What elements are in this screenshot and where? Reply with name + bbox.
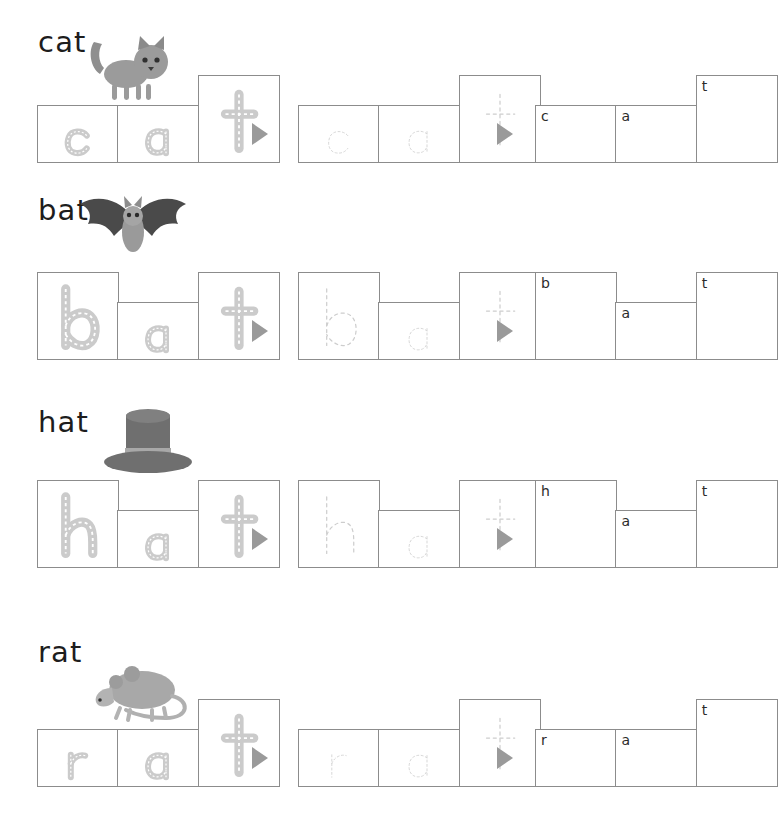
bat-illustration bbox=[74, 192, 192, 274]
glyph-b bbox=[299, 273, 379, 359]
letter-box-t[interactable]: t bbox=[696, 480, 778, 568]
letter-box-c[interactable]: c bbox=[535, 105, 617, 163]
corner-letter-b: b bbox=[541, 275, 550, 291]
letter-box-h bbox=[37, 480, 119, 568]
arrow-2 bbox=[497, 747, 513, 769]
glyph-t bbox=[460, 76, 540, 162]
glyph-t bbox=[460, 700, 540, 786]
arrow-1 bbox=[252, 123, 268, 145]
letter-box-a[interactable]: a bbox=[615, 510, 697, 568]
glyph-a bbox=[118, 303, 198, 359]
arrow-1 bbox=[252, 528, 268, 550]
glyph-t bbox=[199, 76, 279, 162]
glyph-t bbox=[199, 273, 279, 359]
glyph-h bbox=[299, 481, 379, 567]
letter-box-t bbox=[459, 480, 541, 568]
letter-box-t bbox=[198, 699, 280, 787]
word-label: cat bbox=[38, 28, 87, 57]
letter-box-a bbox=[117, 729, 199, 787]
letter-box-a bbox=[378, 302, 460, 360]
letter-box-t bbox=[198, 75, 280, 163]
arrow-2 bbox=[497, 123, 513, 145]
arrow-2 bbox=[497, 528, 513, 550]
arrow-2 bbox=[497, 320, 513, 342]
letter-box-t[interactable]: t bbox=[696, 699, 778, 787]
word-label: hat bbox=[38, 408, 89, 437]
glyph-r bbox=[38, 730, 118, 786]
letter-box-a bbox=[378, 510, 460, 568]
glyph-a bbox=[118, 106, 198, 162]
letter-box-r bbox=[37, 729, 119, 787]
glyph-a bbox=[379, 730, 459, 786]
word-label: bat bbox=[38, 196, 89, 225]
letter-box-h bbox=[298, 480, 380, 568]
corner-letter-a: a bbox=[621, 732, 630, 748]
letter-box-t[interactable]: t bbox=[696, 75, 778, 163]
cat-illustration bbox=[86, 24, 178, 106]
letter-box-a[interactable]: a bbox=[615, 729, 697, 787]
letter-box-a bbox=[378, 105, 460, 163]
letter-box-a bbox=[117, 302, 199, 360]
corner-letter-a: a bbox=[621, 513, 630, 529]
glyph-a bbox=[379, 106, 459, 162]
arrow-1 bbox=[252, 747, 268, 769]
hat-illustration bbox=[100, 400, 196, 486]
glyph-r bbox=[299, 730, 379, 786]
corner-letter-t: t bbox=[702, 483, 708, 499]
glyph-a bbox=[118, 730, 198, 786]
corner-letter-t: t bbox=[702, 275, 708, 291]
letter-box-t bbox=[198, 272, 280, 360]
rat-illustration bbox=[86, 656, 198, 734]
letter-box-a bbox=[117, 105, 199, 163]
glyph-a bbox=[118, 511, 198, 567]
corner-letter-t: t bbox=[702, 78, 708, 94]
glyph-c bbox=[299, 106, 379, 162]
letter-box-r bbox=[298, 729, 380, 787]
letter-box-a[interactable]: a bbox=[615, 105, 697, 163]
letter-box-t bbox=[459, 699, 541, 787]
corner-letter-a: a bbox=[621, 108, 630, 124]
arrow-1 bbox=[252, 320, 268, 342]
letter-box-t bbox=[198, 480, 280, 568]
corner-letter-r: r bbox=[541, 732, 547, 748]
corner-letter-c: c bbox=[541, 108, 549, 124]
letter-box-b bbox=[37, 272, 119, 360]
letter-box-h[interactable]: h bbox=[535, 480, 617, 568]
glyph-t bbox=[460, 273, 540, 359]
glyph-t bbox=[199, 481, 279, 567]
glyph-c bbox=[38, 106, 118, 162]
corner-letter-a: a bbox=[621, 305, 630, 321]
corner-letter-t: t bbox=[702, 702, 708, 718]
glyph-a bbox=[379, 303, 459, 359]
letter-box-t bbox=[459, 272, 541, 360]
corner-letter-h: h bbox=[541, 483, 550, 499]
letter-box-c bbox=[298, 105, 380, 163]
word-label: rat bbox=[38, 638, 83, 667]
letter-box-t bbox=[459, 75, 541, 163]
letter-box-b[interactable]: b bbox=[535, 272, 617, 360]
letter-box-a bbox=[117, 510, 199, 568]
letter-box-t[interactable]: t bbox=[696, 272, 778, 360]
glyph-b bbox=[38, 273, 118, 359]
letter-box-b bbox=[298, 272, 380, 360]
glyph-t bbox=[460, 481, 540, 567]
glyph-t bbox=[199, 700, 279, 786]
letter-box-a bbox=[378, 729, 460, 787]
glyph-a bbox=[379, 511, 459, 567]
letter-box-a[interactable]: a bbox=[615, 302, 697, 360]
letter-box-r[interactable]: r bbox=[535, 729, 617, 787]
letter-box-c bbox=[37, 105, 119, 163]
glyph-h bbox=[38, 481, 118, 567]
